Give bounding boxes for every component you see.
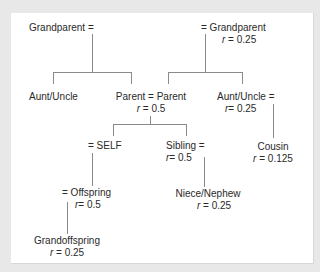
node-grandoffspring: Grandoffspring r = 0.25 — [31, 235, 103, 259]
node-label: = Grandparent — [201, 22, 266, 34]
relatedness-value: r = 0.125 — [248, 153, 298, 165]
edge-grandparent-right-bar — [168, 72, 243, 73]
relatedness-value: r= 0.5 — [62, 199, 111, 211]
edge-grandparent-left-stem — [92, 34, 93, 72]
edge-parent-bar — [113, 124, 187, 125]
relatedness-value: r = 0.25 — [201, 34, 266, 46]
node-aunt-uncle-left: Aunt/Uncle — [29, 91, 78, 103]
node-label: = SELF — [88, 140, 122, 152]
node-label: Sibling = — [166, 140, 205, 152]
edge-to-sibling — [186, 124, 187, 136]
node-parent: Parent = Parent r = 0.5 — [113, 91, 189, 115]
relatedness-value: r = 0.5 — [113, 103, 189, 115]
relatedness-value: r= 0.5 — [166, 152, 205, 164]
node-grandparent-right: = Grandparent r = 0.25 — [201, 22, 266, 46]
relatedness-value: r = 0.25 — [31, 247, 103, 259]
node-label: Grandoffspring — [31, 235, 103, 247]
edge-to-aunt-uncle-right — [242, 72, 243, 84]
node-label: Cousin — [248, 141, 298, 153]
node-label: = Offspring — [62, 187, 111, 199]
node-label: Aunt/Uncle — [29, 91, 78, 103]
relatedness-value: r= 0.25 — [217, 103, 275, 115]
node-label: Aunt/Uncle = — [217, 91, 275, 103]
node-label: Parent = Parent — [113, 91, 189, 103]
edge-parent-stem — [150, 116, 151, 124]
node-self: = SELF — [88, 140, 122, 152]
node-niece-nephew: Niece/Nephew r = 0.25 — [170, 188, 246, 212]
diagram-panel — [11, 13, 314, 264]
node-label: Grandparent = — [29, 22, 94, 34]
edge-grandparent-left-bar — [53, 72, 132, 73]
edge-self-to-offspring — [92, 153, 93, 186]
node-label: Niece/Nephew — [170, 188, 246, 200]
edge-to-self — [113, 124, 114, 136]
node-aunt-uncle-right: Aunt/Uncle = r= 0.25 — [217, 91, 275, 115]
node-sibling: Sibling = r= 0.5 — [166, 140, 205, 164]
node-offspring: = Offspring r= 0.5 — [62, 187, 111, 211]
node-cousin: Cousin r = 0.125 — [248, 141, 298, 165]
edge-to-parent-right — [168, 72, 169, 84]
relatedness-value: r = 0.25 — [170, 200, 246, 212]
node-grandparent-left: Grandparent = — [29, 22, 94, 34]
edge-to-aunt-uncle-left — [53, 72, 54, 84]
edge-to-parent-left — [131, 72, 132, 84]
